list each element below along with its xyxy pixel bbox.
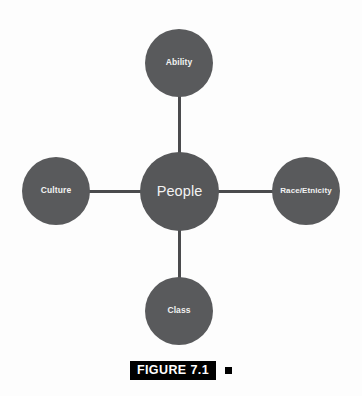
- node-people-label: People: [157, 184, 203, 200]
- node-culture: Culture: [22, 157, 90, 225]
- figure-caption-label: FIGURE 7.1: [130, 361, 216, 380]
- node-class-label: Class: [167, 306, 190, 315]
- node-ability: Ability: [145, 29, 213, 97]
- connector-people-to-ability: [178, 92, 181, 154]
- node-race-ethnicity: Race/Etnicity: [272, 157, 340, 225]
- node-ability-label: Ability: [166, 58, 193, 67]
- node-culture-label: Culture: [41, 186, 71, 195]
- connector-people-to-culture: [84, 190, 146, 193]
- caption-square-marker: [225, 367, 232, 374]
- node-race-ethnicity-label: Race/Etnicity: [280, 187, 332, 196]
- node-class: Class: [145, 277, 213, 345]
- connector-people-to-race-ethnicity: [212, 190, 274, 193]
- figure-container: Ability Race/Etnicity Class Culture Peop…: [0, 0, 362, 396]
- figure-caption: FIGURE 7.1: [0, 361, 362, 380]
- node-people: People: [140, 152, 219, 231]
